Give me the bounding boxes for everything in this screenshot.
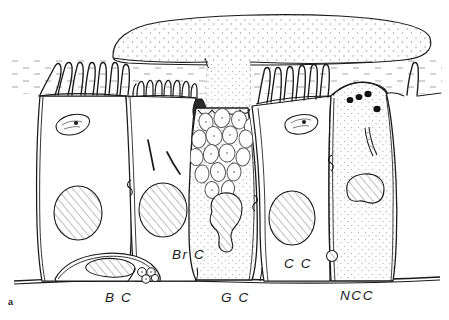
- nucleus: [269, 191, 315, 245]
- basal-vesicle: [327, 251, 338, 262]
- ciliated-cell-right: [252, 96, 331, 281]
- nucleus: [86, 258, 135, 277]
- non-ciliated-cell: [327, 82, 397, 281]
- nucleus: [139, 183, 187, 237]
- nucleus: [347, 174, 384, 203]
- figure-panel-a: B C Br C G C C C NCC a: [0, 0, 449, 320]
- label-ciliated-cell: C C: [284, 256, 312, 271]
- epithelium-diagram: B C Br C G C C C NCC a: [0, 0, 449, 320]
- label-nonciliated-cell: NCC: [340, 288, 374, 303]
- nucleus: [54, 186, 102, 240]
- label-brush-cell: Br C: [172, 247, 205, 262]
- panel-letter: a: [8, 297, 14, 307]
- label-goblet-cell: G C: [221, 290, 250, 305]
- label-basal-cell: B C: [105, 290, 132, 305]
